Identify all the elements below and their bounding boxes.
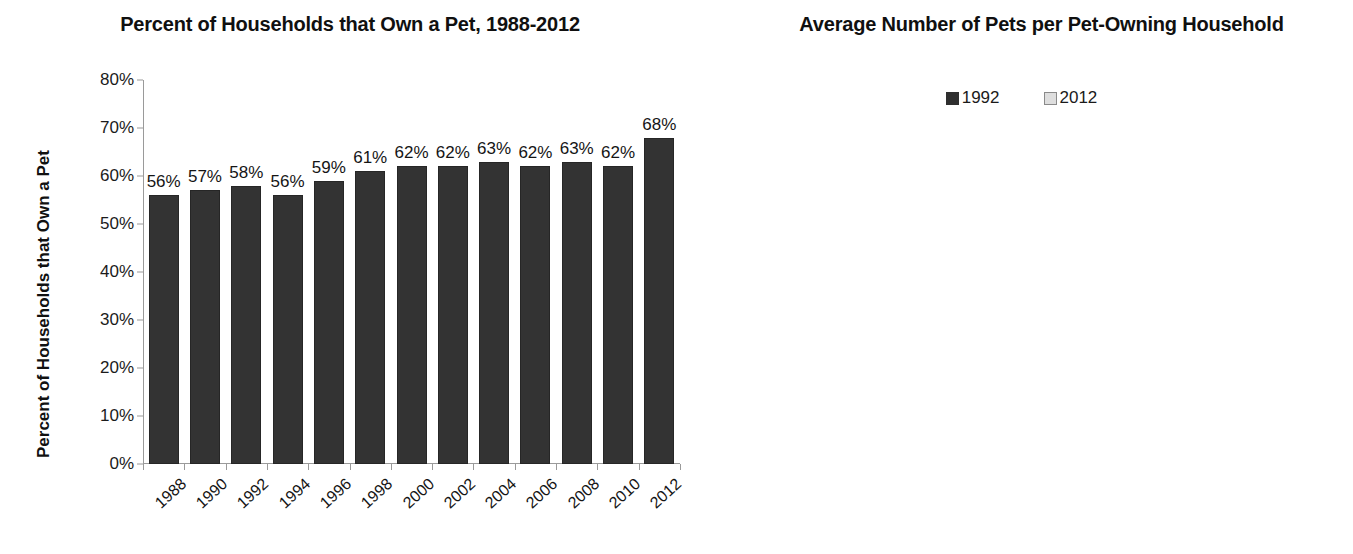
bar-value-label: 56% (147, 172, 181, 192)
bar-value-label: 62% (436, 143, 470, 163)
legend-label: 1992 (962, 88, 1000, 108)
x-axis-label: 2002 (440, 475, 478, 512)
x-tick-mark (515, 464, 516, 470)
figure-row: Percent of Households that Own a Pet, 19… (0, 0, 1353, 554)
chart-title-right: Average Number of Pets per Pet-Owning Ho… (760, 12, 1323, 37)
x-axis-label: 2010 (606, 475, 644, 512)
y-axis-title-left: Percent of Households that Own a Pet (34, 150, 54, 458)
x-axis-label: 1988 (151, 475, 189, 512)
bar-value-label: 62% (518, 143, 552, 163)
bar-value-label: 62% (601, 143, 635, 163)
chart-title-left: Percent of Households that Own a Pet, 19… (70, 12, 630, 37)
x-tick-mark (597, 464, 598, 470)
x-tick-mark (350, 464, 351, 470)
bar (397, 166, 427, 464)
bar (190, 190, 220, 464)
legend-swatch-icon (946, 92, 959, 105)
bar (562, 162, 592, 464)
x-axis-label: 2004 (482, 475, 520, 512)
left-ytick-mark (137, 176, 143, 177)
left-ytick-mark (137, 320, 143, 321)
bar-series-left: 56%57%58%56%59%61%62%62%63%62%63%62%68% (143, 80, 680, 464)
legend-label: 2012 (1060, 88, 1098, 108)
left-ytick-mark (137, 416, 143, 417)
bar-value-label: 57% (188, 167, 222, 187)
legend-right: 19922012 (690, 88, 1353, 108)
bar (520, 166, 550, 464)
x-tick-mark (308, 464, 309, 470)
bar-value-label: 63% (560, 139, 594, 159)
x-axis-label: 2006 (523, 475, 561, 512)
bar (231, 186, 261, 464)
bar-value-label: 61% (353, 148, 387, 168)
bar-value-label: 68% (642, 115, 676, 135)
bar (273, 195, 303, 464)
bar-value-label: 63% (477, 139, 511, 159)
x-axis-label: 2012 (647, 475, 685, 512)
legend-swatch-icon (1044, 92, 1057, 105)
x-tick-mark (473, 464, 474, 470)
x-axis-label: 1996 (316, 475, 354, 512)
bar-value-label: 59% (312, 158, 346, 178)
x-tick-mark (639, 464, 640, 470)
bar-value-label: 58% (229, 163, 263, 183)
left-ytick-mark (137, 80, 143, 81)
x-tick-mark (143, 464, 144, 470)
x-tick-mark (184, 464, 185, 470)
x-tick-mark (680, 464, 681, 470)
bar (314, 181, 344, 464)
x-tick-mark (432, 464, 433, 470)
x-axis-label: 1998 (358, 475, 396, 512)
bar (644, 138, 674, 464)
legend-item[interactable]: 2012 (1044, 88, 1098, 108)
bar (355, 171, 385, 464)
chart-percent-households: Percent of Households that Own a Pet, 19… (0, 0, 690, 554)
chart-average-pets: Average Number of Pets per Pet-Owning Ho… (690, 0, 1353, 554)
x-axis-label: 2008 (564, 475, 602, 512)
left-ytick-mark (137, 368, 143, 369)
x-axis-label: 2000 (399, 475, 437, 512)
bar-value-label: 62% (394, 143, 428, 163)
plot-area-left: 56%57%58%56%59%61%62%62%63%62%63%62%68% … (143, 80, 680, 464)
bar-value-label: 56% (271, 172, 305, 192)
bar (479, 162, 509, 464)
left-ytick-mark (137, 224, 143, 225)
x-axis-label: 1994 (275, 475, 313, 512)
legend-item[interactable]: 1992 (946, 88, 1000, 108)
x-tick-mark (226, 464, 227, 470)
left-ytick-mark (137, 128, 143, 129)
left-ytick-mark (137, 272, 143, 273)
bar (149, 195, 179, 464)
x-tick-mark (391, 464, 392, 470)
x-axis-label: 1992 (234, 475, 272, 512)
x-axis-label: 1990 (193, 475, 231, 512)
x-tick-mark (267, 464, 268, 470)
bar (438, 166, 468, 464)
bar (603, 166, 633, 464)
x-tick-mark (556, 464, 557, 470)
